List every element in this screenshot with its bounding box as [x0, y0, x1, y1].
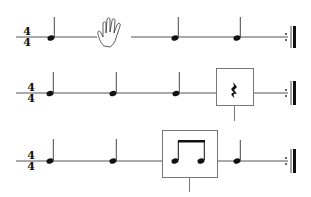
time-signature: 4 4 [23, 25, 31, 49]
boxed-eighth-note-pair [163, 131, 218, 193]
boxed-quarter-rest [217, 69, 254, 122]
quarter-note-icon [109, 72, 118, 97]
rhythm-row-2: 4 4 [16, 69, 296, 122]
quarter-note-icon [46, 72, 55, 97]
time-signature: 4 4 [27, 149, 35, 173]
quarter-note-icon [171, 17, 180, 42]
rhythm-row-3: 4 4 [16, 131, 296, 193]
svg-text:4: 4 [27, 160, 35, 173]
quarter-note-icon [233, 140, 242, 165]
rhythm-diagram: 4 4 4 4 [0, 0, 311, 197]
quarter-note-icon [46, 139, 55, 165]
svg-text:4: 4 [27, 92, 35, 105]
quarter-note-icon [47, 17, 56, 42]
quarter-note-icon [233, 17, 242, 42]
rhythm-row-1: 4 4 [16, 17, 296, 50]
svg-text:4: 4 [23, 36, 31, 49]
hand-icon [97, 18, 131, 50]
time-signature: 4 4 [27, 81, 35, 105]
quarter-note-icon [109, 139, 118, 165]
quarter-note-icon [172, 72, 181, 97]
